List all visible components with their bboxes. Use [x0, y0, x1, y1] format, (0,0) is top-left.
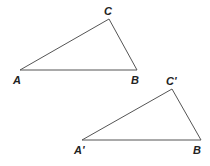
- diagram-canvas: [0, 0, 210, 166]
- label-b-2: B: [193, 145, 201, 156]
- label-a-prime: A': [74, 145, 85, 156]
- label-c: C: [104, 6, 112, 17]
- label-a: A: [13, 75, 21, 86]
- label-c-prime: C': [166, 76, 177, 87]
- label-b: B: [131, 75, 139, 86]
- triangle-abc: [20, 19, 137, 70]
- triangle-a-prime-b-c-prime: [82, 89, 201, 140]
